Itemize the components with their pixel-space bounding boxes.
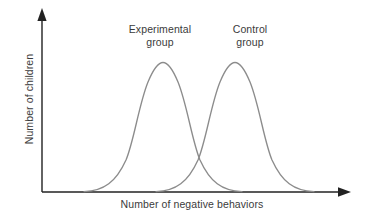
y-axis-title: Number of children bbox=[23, 39, 35, 159]
control-group-curve bbox=[156, 63, 314, 192]
experimental-group-curve bbox=[84, 63, 242, 192]
control-group-label: Control group bbox=[212, 23, 288, 49]
experimental-group-label: Experimental group bbox=[110, 23, 210, 49]
distribution-chart-figure: Experimental group Control group Number … bbox=[0, 0, 369, 218]
arrow-up-icon bbox=[37, 8, 46, 21]
x-axis-title: Number of negative behaviors bbox=[62, 198, 322, 210]
arrow-right-icon bbox=[338, 187, 351, 196]
